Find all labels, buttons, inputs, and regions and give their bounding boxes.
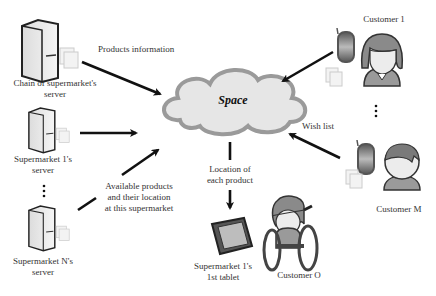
label-available-line2: and their location xyxy=(94,192,184,203)
diagram-canvas: Space Chain of supermarket's server Supe… xyxy=(0,0,436,296)
tablet-icon xyxy=(212,218,252,254)
label-available-products: Available products and their location at… xyxy=(94,181,184,214)
tablet-label-line1: Supermarket 1's xyxy=(188,261,258,272)
label-wish-list: Wish list xyxy=(302,121,334,132)
tablet-label: Supermarket 1's 1st tablet xyxy=(188,261,258,283)
server-label-chain-line1: Chain of supermarket's xyxy=(0,78,110,89)
diagram-svg xyxy=(0,0,436,296)
label-location-line1: Location of xyxy=(196,164,264,175)
phone-icon-c1 xyxy=(326,28,354,86)
tablet-label-line2: 1st tablet xyxy=(188,272,258,283)
server-label-chain-line2: server xyxy=(0,89,110,100)
customer-label-o: Customer O xyxy=(266,270,332,281)
label-products-information: Products information xyxy=(98,44,174,55)
customer-label-m: Customer M xyxy=(366,204,432,215)
wheelchair-person-icon-customer-o xyxy=(264,196,317,270)
server-icon-smN xyxy=(29,206,69,251)
arrow-available-upper xyxy=(122,150,158,175)
cloud-label: Space xyxy=(208,95,258,106)
server-icon-sm1 xyxy=(29,108,69,153)
label-location: Location of each product xyxy=(196,164,264,186)
label-location-line2: each product xyxy=(196,175,264,186)
server-label-sm1-line1: Supermarket 1's xyxy=(0,154,86,165)
server-label-smN-line1: Supermarket N's xyxy=(0,256,86,267)
person-icon-customer-1 xyxy=(362,34,403,86)
server-label-sm1: Supermarket 1's server xyxy=(0,154,86,176)
server-label-sm1-line2: server xyxy=(0,165,86,176)
server-label-smN-line2: server xyxy=(0,267,86,278)
arrow-cM-to-space xyxy=(290,134,340,158)
person-icon-customer-m xyxy=(384,144,420,190)
server-label-chain: Chain of supermarket's server xyxy=(0,78,110,100)
server-label-smN: Supermarket N's server xyxy=(0,256,86,278)
ellipsis-servers xyxy=(43,185,46,198)
phone-icon-cM xyxy=(346,140,374,188)
label-available-line1: Available products xyxy=(94,181,184,192)
label-available-line3: at this supermarket xyxy=(94,203,184,214)
customer-label-1: Customer 1 xyxy=(354,14,414,25)
ellipsis-customers xyxy=(375,105,378,118)
server-icon-chain xyxy=(22,20,78,82)
